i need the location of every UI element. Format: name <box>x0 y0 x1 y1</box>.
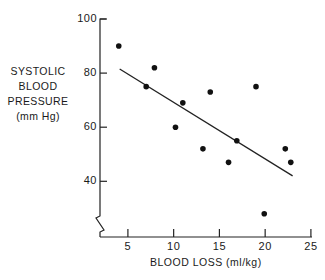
y-tick-label: 80 <box>84 66 97 78</box>
data-point <box>200 146 206 152</box>
data-point <box>234 138 240 144</box>
y-axis <box>96 19 106 237</box>
data-point <box>253 84 259 90</box>
y-ticks <box>100 19 107 181</box>
data-point <box>173 124 179 130</box>
y-tick-label: 40 <box>84 174 97 186</box>
x-tick-label: 25 <box>304 240 317 252</box>
x-axis-label: BLOOD LOSS (ml/kg) <box>150 256 262 268</box>
y-axis-label-line: PRESSURE <box>2 94 74 109</box>
x-tick-label: 5 <box>125 240 132 252</box>
x-tick-label: 20 <box>259 240 272 252</box>
data-point <box>282 146 288 152</box>
data-point <box>152 65 158 71</box>
y-tick-label: 60 <box>84 120 97 132</box>
data-point <box>180 100 186 106</box>
data-point <box>143 84 149 90</box>
data-point <box>226 160 232 166</box>
y-axis-label: SYSTOLIC BLOOD PRESSURE (mm Hg) <box>2 64 74 124</box>
data-point <box>116 43 122 49</box>
x-tick-label: 10 <box>167 240 180 252</box>
x-tick-label: 15 <box>213 240 226 252</box>
y-axis-label-line: BLOOD <box>2 79 74 94</box>
y-axis-label-line: (mm Hg) <box>2 109 74 124</box>
data-point <box>207 89 213 95</box>
x-ticks <box>128 229 311 237</box>
data-point <box>261 211 267 217</box>
scatter-plot <box>0 0 325 280</box>
data-points <box>116 43 294 216</box>
y-axis-label-line: SYSTOLIC <box>2 64 74 79</box>
y-tick-label: 100 <box>77 12 97 24</box>
data-point <box>288 160 294 166</box>
